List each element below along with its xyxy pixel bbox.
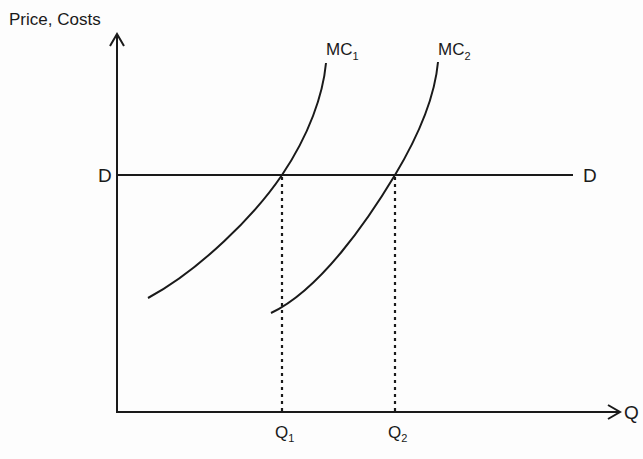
q2-label-name: Q [388, 423, 401, 442]
x-axis-label: Q [624, 402, 639, 423]
svg-text:MC1: MC1 [326, 40, 359, 62]
y-axis-label: Price, Costs [9, 10, 101, 29]
mc2-curve [271, 62, 438, 313]
q1-label-subscript: 1 [288, 432, 294, 444]
svg-text:Q1: Q1 [275, 423, 294, 444]
y-axis [110, 34, 124, 412]
mc1-label-subscript: 1 [352, 50, 358, 62]
mc1-label-name: MC [326, 40, 352, 59]
price-line-label-right: D [583, 165, 597, 186]
svg-text:MC2: MC2 [438, 40, 471, 62]
svg-text:Q2: Q2 [388, 423, 407, 444]
mc2-label-name: MC [438, 40, 464, 59]
mc1-curve [148, 63, 326, 298]
mc2-label-subscript: 2 [464, 50, 470, 62]
x-axis [116, 405, 620, 419]
price-line-label-left: D [98, 165, 112, 186]
mc1-label: MC1 [326, 40, 359, 62]
q2-label-subscript: 2 [401, 432, 407, 444]
q1-label: Q1 [275, 423, 294, 444]
q2-label: Q2 [388, 423, 407, 444]
mc2-label: MC2 [438, 40, 471, 62]
diagram-canvas: Price, Costs Q D D MC1 [0, 0, 643, 459]
q1-label-name: Q [275, 423, 288, 442]
mc-price-diagram: Price, Costs Q D D MC1 [0, 0, 643, 459]
